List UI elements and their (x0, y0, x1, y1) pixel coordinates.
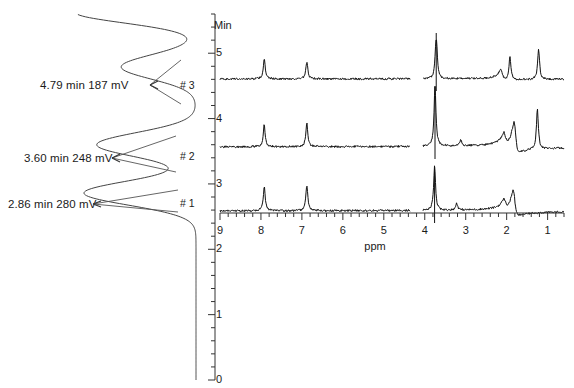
time-tick-label-0: 0 (216, 373, 222, 385)
ppm-tick-label-7: 7 (292, 224, 312, 236)
ppm-tick-label-8: 8 (251, 224, 271, 236)
ppm-tick-label-4: 4 (415, 224, 435, 236)
peak-label-3: 4.79 min 187 mV (40, 79, 128, 91)
ppm-tick-label-6: 6 (333, 224, 353, 236)
chromatogram-panel (0, 0, 200, 388)
nmr-panel (216, 46, 574, 236)
ppm-tick-label-9: 9 (210, 224, 230, 236)
time-tick-label-2: 2 (216, 242, 222, 254)
chromatogram-trace (0, 0, 200, 388)
ppm-tick-label-3: 3 (456, 224, 476, 236)
ppm-axis-title: ppm (355, 240, 395, 252)
peak-label-1: 2.86 min 280 mV (8, 198, 96, 210)
spectrum-fraction-2 (220, 86, 564, 152)
fraction-tag-1: # 1 (180, 197, 195, 209)
lc-nmr-figure: 4.79 min 187 mV 3.60 min 248 mV 2.86 min… (0, 0, 574, 388)
fraction-tag-3: # 3 (180, 79, 195, 91)
time-axis (202, 0, 216, 388)
ppm-tick-label-5: 5 (374, 224, 394, 236)
spectrum-fraction-1 (220, 166, 564, 216)
ppm-tick-label-1: 1 (538, 224, 558, 236)
time-axis-title: Min (214, 19, 232, 31)
time-axis-ticks (202, 0, 216, 388)
time-tick-label-1: 1 (216, 308, 222, 320)
ppm-tick-label-2: 2 (497, 224, 517, 236)
peak-label-2: 3.60 min 248 mV (24, 152, 112, 164)
spectrum-fraction-3 (220, 40, 564, 80)
fraction-tag-2: # 2 (180, 150, 195, 162)
nmr-spectra (216, 46, 574, 236)
